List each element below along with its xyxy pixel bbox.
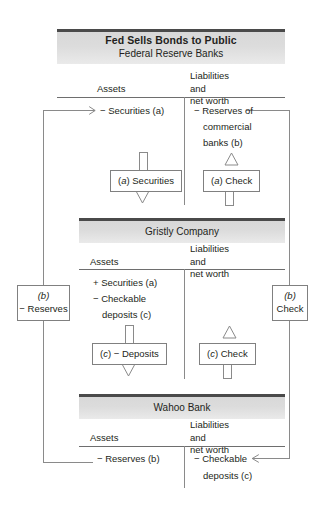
arrow-down-icon bbox=[119, 363, 138, 379]
t-account-rule-1 bbox=[57, 97, 285, 98]
entry-assets-2-2: deposits (c) bbox=[102, 308, 151, 321]
entry-liabilities-1-0: − Reserves of bbox=[194, 104, 253, 117]
flow-box-c-deposits: (c) − Deposits bbox=[92, 343, 167, 365]
arrow-shaft-lower bbox=[223, 363, 232, 379]
flow-box-c-check-label: (c) Check bbox=[199, 343, 256, 365]
entry-assets-2-1: − Checkable bbox=[93, 292, 146, 305]
arrow-down-icon bbox=[133, 190, 152, 206]
flow-box-c-check: (c) Check bbox=[199, 343, 256, 365]
liabilities-line-1: Liabilities and bbox=[190, 243, 229, 268]
column-header-assets-2: Assets bbox=[90, 256, 119, 269]
flow-box-a-check-label: (a) Check bbox=[203, 170, 260, 192]
t-account-divider-1 bbox=[184, 97, 185, 205]
flow-box-a-securities-label: (a) Securities bbox=[110, 170, 182, 192]
column-header-assets-1: Assets bbox=[97, 83, 126, 96]
column-header-assets-3: Assets bbox=[90, 432, 119, 445]
liabilities-line-1: Liabilities and bbox=[190, 419, 229, 444]
column-header-liabilities-3: Liabilities and net worth bbox=[190, 419, 229, 457]
flow-box-a-securities: (a) Securities bbox=[110, 170, 182, 192]
section-title-wahoo-bank: Wahoo Bank bbox=[79, 401, 285, 415]
arrow-up-icon bbox=[220, 324, 239, 344]
arrow-up-icon bbox=[222, 151, 241, 171]
t-account-rule-3 bbox=[79, 446, 285, 447]
entry-assets-1-0: − Securities (a) bbox=[100, 104, 164, 117]
entry-liabilities-3-1: deposits (c) bbox=[203, 469, 252, 482]
arrow-shaft-lower bbox=[225, 190, 234, 206]
flow-box-c-deposits-label: (c) − Deposits bbox=[92, 343, 167, 365]
entry-assets-3-0: − Reserves (b) bbox=[97, 452, 160, 465]
section-header-gristly-company: Gristly Company bbox=[79, 218, 285, 243]
column-header-liabilities-2: Liabilities and net worth bbox=[190, 243, 229, 281]
liabilities-line-1: Liabilities and bbox=[190, 70, 229, 95]
side-box-left-line2: − Reserves bbox=[18, 302, 69, 315]
entry-liabilities-1-1: commercial bbox=[203, 120, 252, 133]
connector-left-bottom bbox=[43, 462, 93, 463]
entry-liabilities-1-2: banks (b) bbox=[203, 136, 243, 149]
section-title-gristly-company: Gristly Company bbox=[79, 225, 285, 239]
figure-canvas: Fed Sells Bonds to Public Federal Reserv… bbox=[0, 0, 333, 506]
arrowhead-left-icon bbox=[249, 452, 262, 465]
side-box-left-line1: (b) bbox=[18, 289, 69, 302]
flow-box-a-check: (a) Check bbox=[203, 170, 260, 192]
entry-liabilities-3-0: − Checkable bbox=[194, 452, 247, 465]
side-box-right-line1: (b) bbox=[273, 289, 307, 302]
arrowhead-right-icon bbox=[86, 104, 98, 117]
side-box-left-reserves: (b) − Reserves bbox=[17, 285, 70, 321]
side-box-right-line2: Check bbox=[273, 302, 307, 315]
column-header-liabilities-1: Liabilities and net worth bbox=[190, 70, 229, 108]
t-account-divider-3 bbox=[184, 446, 185, 488]
section-header-wahoo-bank: Wahoo Bank bbox=[79, 394, 285, 419]
section-header-federal-reserve-banks: Fed Sells Bonds to Public Federal Reserv… bbox=[57, 29, 285, 64]
t-account-rule-2 bbox=[79, 269, 285, 270]
section-title-federal-reserve-banks: Federal Reserve Banks bbox=[57, 47, 285, 61]
entry-assets-2-0: + Securities (a) bbox=[93, 276, 157, 289]
side-box-right-check: (b) Check bbox=[272, 285, 308, 321]
t-account-divider-2 bbox=[184, 269, 185, 379]
page-title: Fed Sells Bonds to Public bbox=[57, 34, 285, 47]
